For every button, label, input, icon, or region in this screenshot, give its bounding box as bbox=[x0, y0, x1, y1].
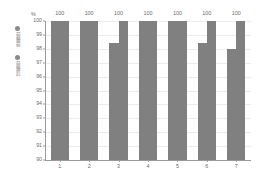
bar bbox=[80, 21, 89, 160]
y-tick-label: 98 bbox=[36, 46, 42, 51]
y-tick-label: 99 bbox=[36, 32, 42, 37]
circle-marker-icon bbox=[15, 26, 20, 31]
bar-group: 1005 bbox=[168, 21, 186, 160]
bar bbox=[60, 21, 69, 160]
bar bbox=[148, 21, 157, 160]
bar bbox=[168, 21, 177, 160]
x-tick-label: 5 bbox=[176, 164, 179, 169]
x-tick-label: 1 bbox=[58, 164, 61, 169]
x-tick-label: 3 bbox=[117, 164, 120, 169]
legend-entry-label: 前膜前 bbox=[14, 32, 19, 47]
bar-group: 1004 bbox=[139, 21, 157, 160]
bar bbox=[139, 21, 148, 160]
bar-group: 1007 bbox=[227, 21, 245, 160]
bar bbox=[207, 21, 216, 160]
legend-entry: 前膜前 bbox=[4, 26, 30, 47]
bar-value-label: 100 bbox=[85, 10, 94, 15]
y-tick-label: 90 bbox=[36, 157, 42, 162]
bar bbox=[119, 21, 128, 160]
bar bbox=[236, 21, 245, 160]
x-tick-label: 6 bbox=[205, 164, 208, 169]
plot-area: 10099989796959493929190 1001100210031004… bbox=[45, 21, 251, 161]
bar-value-label: 100 bbox=[202, 10, 211, 15]
x-tick-label: 2 bbox=[88, 164, 91, 169]
y-tick-label: 97 bbox=[36, 60, 42, 65]
y-tick-label: 92 bbox=[36, 130, 42, 135]
bar-group: 1002 bbox=[80, 21, 98, 160]
bar-value-label: 100 bbox=[173, 10, 182, 15]
y-tick-label: 91 bbox=[36, 143, 42, 148]
bar bbox=[51, 21, 60, 160]
bar bbox=[227, 49, 236, 160]
y-tick-label: 93 bbox=[36, 116, 42, 121]
bar-value-label: 100 bbox=[232, 10, 241, 15]
y-tick-label: 95 bbox=[36, 88, 42, 93]
bar-group: 1006 bbox=[198, 21, 216, 160]
y-tick-label: 94 bbox=[36, 102, 42, 107]
legend-entry: 前膜后 bbox=[4, 55, 30, 76]
bar-value-label: 100 bbox=[55, 10, 64, 15]
y-axis-title: % bbox=[31, 11, 36, 17]
y-tick-label: 96 bbox=[36, 74, 42, 79]
bar-value-label: 100 bbox=[143, 10, 152, 15]
bar-group: 1003 bbox=[109, 21, 127, 160]
bar-value-label: 100 bbox=[114, 10, 123, 15]
bar bbox=[109, 43, 118, 160]
legend-entry-label: 前膜后 bbox=[14, 61, 19, 76]
bar bbox=[177, 21, 186, 160]
x-tick-label: 7 bbox=[235, 164, 238, 169]
x-axis-line bbox=[45, 160, 251, 161]
y-axis-line bbox=[45, 21, 46, 161]
x-tick-label: 4 bbox=[146, 164, 149, 169]
bar-group: 1001 bbox=[51, 21, 69, 160]
bar bbox=[198, 43, 207, 160]
bar bbox=[89, 21, 98, 160]
y-tick-label: 100 bbox=[33, 18, 42, 23]
bar-chart-figure: 前膜前 前膜后 % 10099989796959493929190 100110… bbox=[0, 0, 258, 187]
circle-marker-icon bbox=[15, 55, 20, 60]
